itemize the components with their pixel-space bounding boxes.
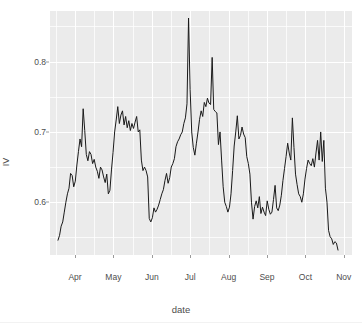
x-tick-mark: [190, 255, 191, 258]
y-axis-tick-labels: 0.80.70.6: [10, 0, 46, 323]
x-tick-label: May: [93, 272, 133, 282]
x-tick-mark: [305, 255, 306, 258]
x-tick-label: Jun: [132, 272, 172, 282]
x-tick-mark: [75, 255, 76, 258]
x-tick-label: Nov: [324, 272, 362, 282]
iv-time-series-chart: IV 0.80.70.6 AprMayJunJulAugSepOctNov da…: [0, 0, 362, 323]
y-tick-mark: [46, 202, 49, 203]
y-tick-label: 0.7: [16, 127, 46, 137]
x-tick-mark: [267, 255, 268, 258]
x-axis-title: date: [0, 304, 362, 315]
x-tick-mark: [344, 255, 345, 258]
x-tick-label: Aug: [209, 272, 249, 282]
x-tick-label: Jul: [170, 272, 210, 282]
y-tick-label: 0.6: [16, 197, 46, 207]
x-tick-mark: [229, 255, 230, 258]
series-line-iv: [50, 11, 352, 255]
plot-panel: [50, 11, 352, 255]
y-tick-label: 0.8: [16, 57, 46, 67]
x-tick-label: Sep: [247, 272, 287, 282]
y-tick-mark: [46, 61, 49, 62]
x-tick-mark: [113, 255, 114, 258]
x-tick-mark: [152, 255, 153, 258]
x-tick-label: Oct: [285, 272, 325, 282]
x-tick-label: Apr: [55, 272, 95, 282]
y-tick-mark: [46, 131, 49, 132]
